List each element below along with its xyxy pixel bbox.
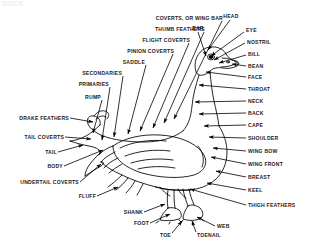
leader-bill (219, 55, 246, 63)
leader-body (64, 150, 103, 166)
leader-secondaries (114, 76, 123, 137)
leader-throat (199, 85, 246, 89)
leader-drake-feathers (70, 118, 93, 122)
label-secondaries: SECONDARIES (82, 70, 122, 76)
label-saddle: SADDLE (123, 59, 145, 65)
label-eye: EYE (246, 27, 257, 33)
label-ear: EAR (192, 25, 203, 31)
label-rump: RUMP (85, 94, 101, 100)
leader-web (197, 217, 215, 226)
label-bill: BILL (248, 51, 260, 57)
label-shoulder: SHOULDER (248, 135, 278, 141)
label-keel: KEEL (248, 187, 262, 193)
leader-neck (195, 101, 246, 102)
leader-undertail-coverts (80, 164, 101, 182)
leader-flight-coverts (153, 43, 189, 128)
label-thigh-feathers: THIGH FEATHERS (248, 202, 295, 208)
leader-thigh-feathers (190, 189, 246, 205)
leader-cape (204, 125, 246, 126)
label-pinion-coverts: PINION COVERTS (127, 48, 174, 54)
leader-shoulder (209, 137, 246, 138)
label-fluff: FLUFF (79, 193, 96, 199)
label-tail-coverts: TAIL COVERTS (24, 134, 64, 140)
leader-wing-front (211, 157, 246, 164)
label-foot: FOOT (134, 220, 149, 226)
leader-wing-bow (213, 148, 246, 151)
label-flight-coverts: FLIGHT COVERTS (142, 37, 190, 43)
leader-back (199, 113, 246, 114)
leader-foot (150, 214, 170, 223)
label-body: BODY (47, 163, 63, 169)
label-nostril: NOSTRIL (247, 39, 271, 45)
label-toe: TOE (160, 232, 171, 238)
leader-tail (58, 145, 83, 152)
leader-toenail (192, 221, 196, 232)
duck-anatomy-diagram: DUCK (0, 0, 313, 245)
leader-nostril (214, 43, 245, 60)
label-coverts-wing-bar: COVERTS, OR WING BAR (156, 15, 223, 21)
leader-face (206, 72, 246, 77)
leader-fluff (97, 187, 118, 196)
label-toenail: TOENAIL (197, 232, 221, 238)
label-shank: SHANK (124, 209, 143, 215)
leader-keel (207, 183, 246, 190)
label-drake-feathers: DRAKE FEATHERS (19, 115, 69, 121)
label-cape: CAPE (248, 122, 263, 128)
leader-tail-coverts (65, 137, 91, 139)
label-face: FACE (248, 74, 262, 80)
leader-shank (144, 204, 165, 212)
label-primaries: PRIMARIES (79, 81, 109, 87)
label-back: BACK (248, 110, 264, 116)
label-wing-bow: WING BOW (248, 148, 278, 154)
label-web: WEB (217, 223, 230, 229)
label-tail: TAIL (45, 149, 57, 155)
leader-head (208, 20, 230, 50)
label-wing-front: WING FRONT (248, 161, 283, 167)
label-breast: BREAST (248, 174, 270, 180)
label-undertail-coverts: UNDERTAIL COVERTS (20, 179, 79, 185)
label-throat: THROAT (248, 86, 270, 92)
label-head: HEAD (223, 13, 238, 19)
label-bean: BEAN (248, 63, 263, 69)
leader-toe (172, 221, 182, 233)
label-neck: NECK (248, 98, 263, 104)
